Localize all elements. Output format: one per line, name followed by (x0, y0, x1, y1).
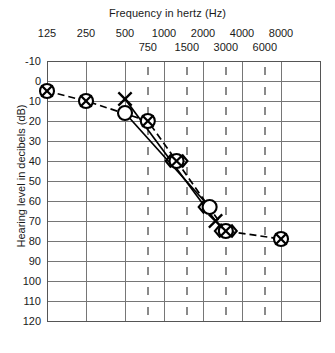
symbol-masked-circle-x (170, 154, 184, 168)
symbol-circle (118, 106, 132, 120)
audiogram-plot-area (0, 0, 335, 353)
half-octave-tick-marks (148, 67, 265, 315)
symbol-masked-circle-x (79, 94, 93, 108)
symbol-masked-circle-x (141, 114, 155, 128)
symbol-circle (203, 200, 217, 214)
audiogram-chart: Frequency in hertz (Hz) 1252505001000200… (0, 0, 335, 353)
symbol-masked-circle-x (274, 232, 288, 246)
symbol-masked-circle-x (40, 84, 54, 98)
